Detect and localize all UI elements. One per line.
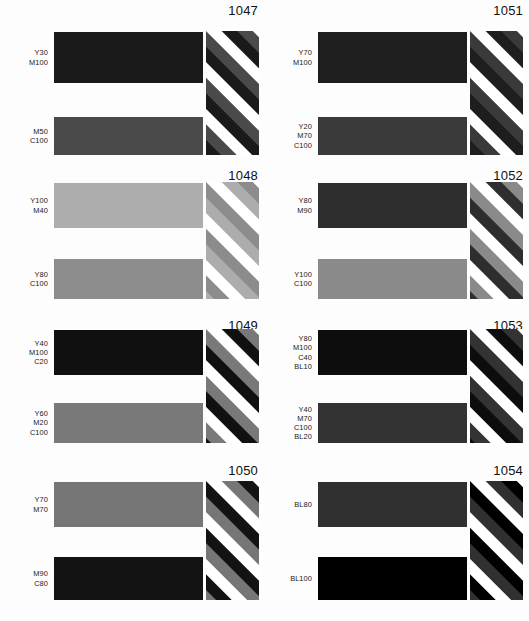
bottom-swatch-label: Y20 M70 C100 [264, 122, 312, 150]
swatch-cell: 1048Y100 M40Y80 C100 [0, 165, 264, 315]
swatch-grid: 1047Y30 M100M50 C1001051Y70 M100Y20 M70 … [0, 0, 529, 621]
swatch-cell: 1054BL80BL100 [264, 460, 529, 621]
top-color-swatch [54, 330, 203, 375]
reference-number: 1054 [493, 464, 523, 477]
bottom-swatch-label: M90 C80 [0, 569, 48, 587]
bottom-color-swatch [54, 557, 203, 600]
bottom-swatch-label: Y80 C100 [0, 270, 48, 288]
swatch-cell: 1053Y80 M100 C40 BL10Y40 M70 C100 BL20 [264, 315, 529, 460]
top-color-swatch [54, 482, 203, 527]
bottom-color-swatch [318, 259, 467, 299]
top-color-swatch [54, 183, 203, 228]
swatch-cell: 1050Y70 M70M90 C80 [0, 460, 264, 621]
top-swatch-label: Y80 M90 [264, 196, 312, 214]
swatch-cell: 1049Y40 M100 C20Y60 M20 C100 [0, 315, 264, 460]
top-color-swatch [318, 330, 467, 375]
diagonal-stripe-panel [206, 182, 259, 299]
top-swatch-label: Y70 M70 [0, 495, 48, 513]
top-swatch-label: Y40 M100 C20 [0, 339, 48, 367]
diagonal-stripe-panel [470, 329, 523, 443]
diagonal-stripe-panel [470, 481, 523, 600]
top-swatch-label: Y30 M100 [0, 48, 48, 66]
swatch-cell: 1052Y80 M90Y100 C100 [264, 165, 529, 315]
bottom-color-swatch [318, 557, 467, 600]
diagonal-stripe-panel [206, 31, 259, 155]
swatch-cell: 1047Y30 M100M50 C100 [0, 0, 264, 165]
bottom-color-swatch [54, 403, 203, 443]
reference-number: 1051 [493, 4, 523, 17]
bottom-color-swatch [318, 403, 467, 443]
top-color-swatch [318, 183, 467, 228]
bottom-swatch-label: Y100 C100 [264, 270, 312, 288]
top-swatch-label: Y80 M100 C40 BL10 [264, 334, 312, 371]
top-swatch-label: BL80 [264, 500, 312, 509]
bottom-swatch-label: Y40 M70 C100 BL20 [264, 405, 312, 442]
bottom-color-swatch [54, 117, 203, 155]
top-swatch-label: Y70 M100 [264, 48, 312, 66]
top-swatch-label: Y100 M40 [0, 196, 48, 214]
diagonal-stripe-panel [206, 481, 259, 600]
bottom-swatch-label: Y60 M20 C100 [0, 409, 48, 437]
top-color-swatch [318, 482, 467, 527]
bottom-swatch-label: BL100 [264, 574, 312, 583]
reference-number: 1048 [228, 169, 258, 182]
bottom-swatch-label: M50 C100 [0, 127, 48, 145]
swatch-cell: 1051Y70 M100Y20 M70 C100 [264, 0, 529, 165]
bottom-color-swatch [318, 117, 467, 155]
reference-number: 1052 [493, 169, 523, 182]
bottom-color-swatch [54, 259, 203, 299]
color-chart-sheet: 1047Y30 M100M50 C1001051Y70 M100Y20 M70 … [0, 0, 529, 621]
reference-number: 1050 [228, 464, 258, 477]
diagonal-stripe-panel [470, 182, 523, 299]
diagonal-stripe-panel [206, 329, 259, 443]
top-color-swatch [54, 32, 203, 83]
diagonal-stripe-panel [470, 31, 523, 155]
reference-number: 1047 [228, 4, 258, 17]
top-color-swatch [318, 32, 467, 83]
